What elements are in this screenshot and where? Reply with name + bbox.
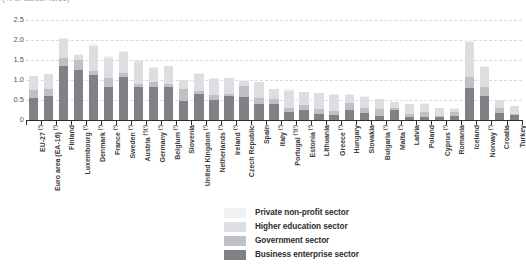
bar-segment xyxy=(314,93,323,109)
bar-column[interactable] xyxy=(372,20,387,120)
category-label-slot: Belgium (¹) xyxy=(161,125,176,195)
bar-column[interactable] xyxy=(342,20,357,120)
bars-container xyxy=(26,20,522,120)
legend-item[interactable]: Private non-profit sector xyxy=(224,206,359,219)
bar-column[interactable] xyxy=(56,20,71,120)
category-label-slot: Turkey xyxy=(507,125,522,195)
bar-column[interactable] xyxy=(282,20,297,120)
bar-column[interactable] xyxy=(387,20,402,120)
category-label-slot: Bulgaria (¹) xyxy=(372,125,387,195)
bar-segment xyxy=(29,90,38,97)
bar-column[interactable] xyxy=(116,20,131,120)
category-label-slot: Sweden (¹) xyxy=(116,125,131,195)
bar-column[interactable] xyxy=(206,20,221,120)
bar-column[interactable] xyxy=(26,20,41,120)
bar-column[interactable] xyxy=(71,20,86,120)
bar-stack xyxy=(164,66,173,120)
bar-stack xyxy=(405,104,414,120)
bar-segment xyxy=(375,109,384,116)
bar-segment xyxy=(194,94,203,120)
legend-label: Higher education sector xyxy=(255,222,348,231)
bar-segment xyxy=(360,113,369,120)
bar-column[interactable] xyxy=(236,20,251,120)
bar-column[interactable] xyxy=(131,20,146,120)
bar-segment xyxy=(59,39,68,58)
bar-segment xyxy=(179,80,188,89)
bar-segment xyxy=(224,78,233,94)
bar-column[interactable] xyxy=(101,20,116,120)
bar-column[interactable] xyxy=(297,20,312,120)
bar-column[interactable] xyxy=(191,20,206,120)
y-axis-labels: 00.51.01.52.02.5 xyxy=(0,20,24,120)
bar-stack xyxy=(329,94,338,120)
bar-stack xyxy=(224,78,233,120)
bar-stack xyxy=(375,99,384,120)
bar-segment xyxy=(44,89,53,96)
bar-segment xyxy=(104,78,113,86)
bar-column[interactable] xyxy=(161,20,176,120)
bar-segment xyxy=(420,104,429,112)
bar-column[interactable] xyxy=(492,20,507,120)
category-label-slot: Czech Republic xyxy=(236,125,251,195)
bar-stack xyxy=(44,74,53,120)
bar-segment xyxy=(74,60,83,70)
bar-stack xyxy=(209,78,218,120)
y-axis-tick-label: 0 xyxy=(2,116,24,124)
category-label-slot: Slovakia xyxy=(357,125,372,195)
bar-column[interactable] xyxy=(176,20,191,120)
bar-segment xyxy=(44,74,53,88)
legend-item[interactable]: Government sector xyxy=(224,234,359,247)
bar-column[interactable] xyxy=(432,20,447,120)
bar-segment xyxy=(239,86,248,97)
bar-stack xyxy=(360,96,369,120)
bar-column[interactable] xyxy=(507,20,522,120)
category-label-slot: Italy (¹) xyxy=(267,125,282,195)
legend-swatch xyxy=(224,250,246,260)
bar-segment xyxy=(345,95,354,103)
bar-segment xyxy=(59,66,68,120)
bar-segment xyxy=(179,89,188,101)
bar-segment xyxy=(29,98,38,120)
bar-segment xyxy=(149,68,158,82)
chart-legend: Private non-profit sectorHigher educatio… xyxy=(224,206,359,261)
bar-stack xyxy=(254,82,263,120)
bar-column[interactable] xyxy=(327,20,342,120)
bar-segment xyxy=(465,88,474,120)
bar-segment xyxy=(480,96,489,120)
category-label-slot: Luxembourg (¹) xyxy=(71,125,86,195)
legend-item[interactable]: Higher education sector xyxy=(224,220,359,233)
bar-column[interactable] xyxy=(417,20,432,120)
bar-stack xyxy=(480,66,489,120)
category-label-slot: Hungary xyxy=(342,125,357,195)
bar-column[interactable] xyxy=(312,20,327,120)
category-label-slot: Lithuania xyxy=(312,125,327,195)
category-label-slot: Cyprus (¹) xyxy=(432,125,447,195)
category-label-slot: Euro area (EA-16) (¹) xyxy=(41,125,56,195)
bar-column[interactable] xyxy=(86,20,101,120)
bar-column[interactable] xyxy=(221,20,236,120)
bar-segment xyxy=(119,52,128,73)
bar-segment xyxy=(345,103,354,110)
bar-segment xyxy=(345,110,354,120)
bar-stack xyxy=(239,80,248,120)
bar-segment xyxy=(375,99,384,109)
bar-segment xyxy=(89,46,98,71)
bar-stack xyxy=(119,51,128,120)
bar-segment xyxy=(405,104,414,114)
legend-item[interactable]: Business enterprise sector xyxy=(224,248,359,261)
bar-column[interactable] xyxy=(251,20,266,120)
bar-segment xyxy=(209,100,218,120)
bar-column[interactable] xyxy=(41,20,56,120)
legend-label: Private non-profit sector xyxy=(255,208,349,217)
bar-segment xyxy=(284,112,293,120)
bar-column[interactable] xyxy=(146,20,161,120)
bar-column[interactable] xyxy=(357,20,372,120)
bar-column[interactable] xyxy=(447,20,462,120)
category-label-slot: Slovenia xyxy=(176,125,191,195)
bar-stack xyxy=(299,92,308,120)
bar-column[interactable] xyxy=(462,20,477,120)
bar-column[interactable] xyxy=(267,20,282,120)
bar-segment xyxy=(164,87,173,120)
bar-column[interactable] xyxy=(477,20,492,120)
bar-column[interactable] xyxy=(402,20,417,120)
